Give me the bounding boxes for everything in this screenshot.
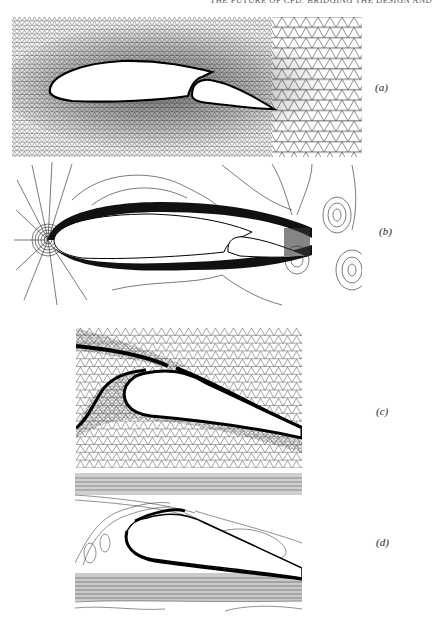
panel-d-contour-closeup: [75, 473, 302, 613]
panel-a-mesh: [12, 17, 362, 157]
panel-label-a: (a): [375, 81, 388, 93]
panel-c-mesh-closeup: [76, 328, 302, 468]
panel-label-c: (c): [376, 405, 388, 417]
mesh-figure: [12, 17, 362, 157]
contour-figure: [12, 160, 362, 308]
panel-b-contours: [12, 160, 362, 308]
running-header: THE FUTURE OF CFD: BRIDGING THE DESIGN A…: [210, 0, 410, 5]
panel-label-d: (d): [376, 536, 389, 548]
contour-closeup-figure: [75, 473, 302, 613]
mesh-closeup-figure: [76, 328, 302, 468]
panel-label-b: (b): [379, 225, 392, 237]
